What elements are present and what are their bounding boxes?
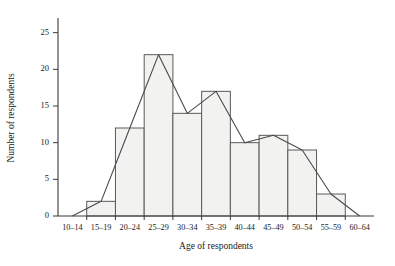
x-tick-label: 40–44 [234,223,254,232]
x-tick-label: 25–29 [148,223,168,232]
y-tick-label: 5 [45,173,49,183]
y-axis [53,18,58,216]
y-tick-label: 10 [41,137,50,147]
x-tick-label: 55–59 [321,223,341,232]
y-tick-label: 0 [45,210,49,220]
y-tick-label: 20 [41,63,50,73]
x-tick-label: 35–39 [206,223,226,232]
y-tick-labels: 0510152025 [41,27,50,220]
histogram-bar [288,150,317,216]
histogram-chart: 0510152025 10–1415–1920–2425–2930–3435–3… [0,0,395,266]
x-axis [58,216,374,220]
x-tick-label: 15–19 [91,223,111,232]
y-tick-label: 15 [41,100,50,110]
chart-canvas: 0510152025 10–1415–1920–2425–2930–3435–3… [0,0,395,266]
y-tick-label: 25 [41,27,50,37]
y-axis-ticks [53,33,58,216]
histogram-bar [317,194,346,216]
histogram-bar [173,113,202,216]
histogram-bar [259,135,288,216]
histogram-bar [230,143,259,216]
x-tick-label: 50–54 [292,223,312,232]
x-tick-label: 30–34 [177,223,197,232]
histogram-bars [87,55,346,216]
x-tick-labels: 10–1415–1920–2425–2930–3435–3940–4445–49… [62,223,370,232]
x-axis-title: Age of respondents [179,241,253,251]
x-tick-label: 20–24 [120,223,140,232]
x-tick-label: 60–64 [349,223,369,232]
plot-area [72,55,359,216]
histogram-bar [87,201,116,216]
y-axis-title: Number of respondents [6,73,16,162]
x-axis-ticks [87,216,346,220]
x-tick-label: 10–14 [62,223,82,232]
histogram-bar [115,128,144,216]
x-tick-label: 45–49 [263,223,283,232]
